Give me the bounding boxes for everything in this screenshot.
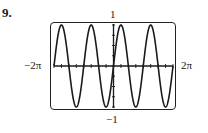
graph-plot — [0, 0, 208, 133]
